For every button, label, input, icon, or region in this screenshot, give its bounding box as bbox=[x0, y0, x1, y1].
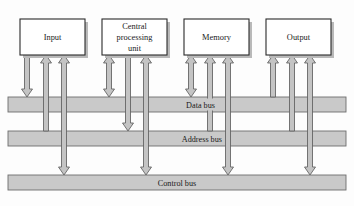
arrow-input-to-control-bidirectional bbox=[59, 55, 70, 175]
bus-label-control: Control bus bbox=[158, 179, 196, 188]
arrow-output-to-control-bidirectional bbox=[305, 55, 316, 175]
arrow-input-to-data-down bbox=[22, 55, 33, 97]
component-cpu[interactable]: Centralprocessingunit bbox=[102, 19, 170, 58]
component-memory[interactable]: Memory bbox=[184, 19, 252, 58]
diagram-canvas: Data busAddress busControl busInputCentr… bbox=[0, 0, 354, 206]
component-label-input: Input bbox=[44, 33, 62, 42]
arrow-cpu-to-data-bidirectional bbox=[104, 55, 115, 97]
component-output[interactable]: Output bbox=[266, 19, 334, 58]
connection-arrows-layer bbox=[22, 55, 316, 175]
arrow-memory-to-data-bidirectional bbox=[186, 55, 197, 97]
arrow-cpu-to-control-bidirectional bbox=[141, 55, 152, 175]
arrow-input-to-address-up bbox=[41, 55, 52, 131]
arrow-memory-to-control-bidirectional bbox=[223, 55, 234, 175]
arrow-memory-to-address-up bbox=[205, 55, 216, 131]
arrow-output-to-address-up bbox=[287, 55, 298, 131]
component-label-cpu: Central bbox=[122, 22, 147, 31]
arrow-cpu-to-address-down bbox=[123, 55, 134, 131]
component-input[interactable]: Input bbox=[20, 19, 88, 58]
component-label-cpu: processing bbox=[117, 33, 154, 42]
component-boxes-layer: InputCentralprocessingunitMemoryOutput bbox=[20, 19, 334, 58]
arrow-output-to-data-up bbox=[268, 55, 279, 97]
component-label-memory: Memory bbox=[202, 33, 232, 42]
bus-address bbox=[8, 131, 346, 146]
component-label-output: Output bbox=[287, 33, 311, 42]
bus-lines-layer bbox=[8, 97, 346, 190]
bus-architecture-diagram: Data busAddress busControl busInputCentr… bbox=[0, 0, 354, 206]
bus-label-data: Data bus bbox=[186, 101, 215, 110]
bus-band-address bbox=[8, 131, 346, 146]
component-label-cpu: unit bbox=[128, 44, 142, 53]
bus-label-address: Address bus bbox=[182, 135, 222, 144]
